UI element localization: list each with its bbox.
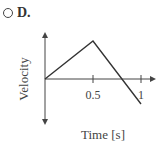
velocity-time-chart: 0.5 1 Velocity Time [s] bbox=[0, 0, 163, 157]
x-axis-label: Time [s] bbox=[81, 127, 125, 142]
y-axis-label: Velocity bbox=[16, 57, 31, 101]
x-tick-label: 0.5 bbox=[86, 88, 101, 102]
x-tick-label: 1 bbox=[138, 88, 144, 102]
